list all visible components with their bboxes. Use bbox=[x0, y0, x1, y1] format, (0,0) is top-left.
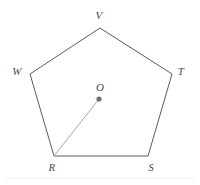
pentagon-diagram-svg bbox=[0, 0, 200, 185]
center-point-dot bbox=[96, 96, 101, 101]
vertex-label-t: T bbox=[178, 66, 184, 77]
vertex-label-w: W bbox=[12, 66, 21, 77]
vertex-label-r: R bbox=[49, 162, 56, 173]
center-label-o: O bbox=[96, 82, 104, 93]
vertex-label-s: S bbox=[148, 162, 154, 173]
vertex-label-v: V bbox=[96, 10, 103, 21]
geometry-figure-canvas: V T S R W O bbox=[0, 0, 200, 185]
